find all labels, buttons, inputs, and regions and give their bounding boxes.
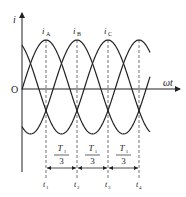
origin-label: O [11, 84, 18, 95]
curve-label-i-a: i A [42, 26, 51, 37]
interval-2: T 1 3 [85, 143, 100, 166]
svg-text:C: C [108, 31, 112, 37]
svg-text:4: 4 [139, 185, 142, 190]
svg-text:3: 3 [90, 156, 95, 166]
svg-text:2: 2 [77, 185, 80, 190]
y-axis-label: i [13, 14, 16, 25]
svg-text:1: 1 [95, 149, 98, 154]
x-axis-label: ωt [163, 77, 173, 88]
svg-text:3: 3 [121, 156, 126, 166]
svg-text:B: B [77, 31, 81, 37]
svg-text:T: T [88, 143, 94, 153]
svg-text:T: T [57, 143, 63, 153]
time-mark-t1: t 1 [43, 180, 49, 190]
curve-label-i-c: i C [104, 26, 112, 37]
svg-text:1: 1 [126, 149, 129, 154]
time-mark-t2: t 2 [74, 180, 80, 190]
svg-text:i: i [104, 26, 107, 36]
curve-label-i-b: i B [73, 26, 81, 37]
svg-text:i: i [73, 26, 76, 36]
time-mark-t3: t 3 [105, 180, 111, 190]
svg-text:1: 1 [64, 149, 67, 154]
svg-text:A: A [46, 31, 51, 37]
interval-3: T 1 3 [116, 143, 131, 166]
curve-i-c [22, 40, 150, 134]
svg-text:T: T [119, 143, 125, 153]
three-phase-current-diagram: i ωt O i A i B i C T 1 3 T 1 3 T 1 3 t 1 [0, 0, 186, 197]
time-mark-t4: t 4 [136, 180, 142, 190]
svg-text:1: 1 [46, 185, 49, 190]
interval-1: T 1 3 [54, 143, 69, 166]
svg-text:i: i [42, 26, 45, 36]
svg-text:3: 3 [108, 185, 111, 190]
svg-text:3: 3 [59, 156, 64, 166]
